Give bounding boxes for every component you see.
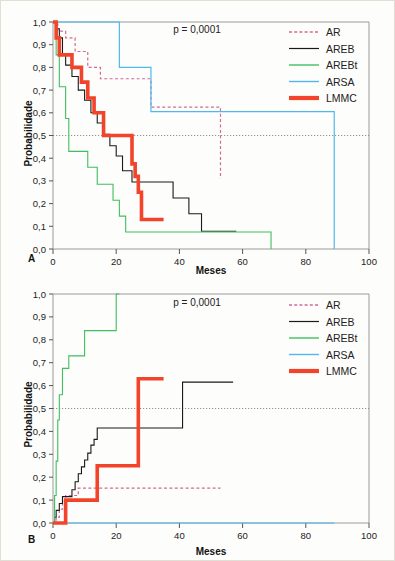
panel-a-label: A <box>28 253 35 264</box>
panel-b: B Probabilidade Meses 0,00,10,20,30,40,5… <box>1 282 395 561</box>
y-tick-label: 0,8 <box>33 62 46 73</box>
y-tick-label: 0,0 <box>33 518 46 529</box>
y-tick-label: 0,4 <box>33 426 46 437</box>
y-tick-label: 0,2 <box>33 198 46 209</box>
legend-label-ar: AR <box>326 26 341 38</box>
panel-a: A Probabilidade Meses 0,00,10,20,30,40,5… <box>1 1 395 282</box>
panel-a-x-axis-title: Meses <box>161 265 261 276</box>
panel-a-plot: 0,00,10,20,30,40,50,60,70,80,91,00204060… <box>1 1 395 282</box>
x-tick-label: 60 <box>237 530 248 541</box>
panel-b-y-axis-title: Probabilidade <box>23 365 34 465</box>
y-tick-label: 0,1 <box>33 495 46 506</box>
legend-label-arsa: ARSA <box>326 76 355 88</box>
x-tick-label: 100 <box>361 530 377 541</box>
y-tick-label: 0,3 <box>33 175 46 186</box>
y-tick-label: 0,2 <box>33 472 46 483</box>
y-tick-label: 0,5 <box>33 403 46 414</box>
y-tick-label: 0,9 <box>33 39 46 50</box>
series-line-ar <box>53 488 220 523</box>
legend-label-areb: AREB <box>326 316 355 328</box>
y-tick-label: 0,8 <box>33 334 46 345</box>
panel-b-x-axis-title: Meses <box>161 546 261 557</box>
series-line-areb <box>53 22 236 231</box>
y-tick-label: 0,6 <box>33 380 46 391</box>
y-tick-label: 0,6 <box>33 107 46 118</box>
y-tick-label: 0,7 <box>33 85 46 96</box>
y-tick-label: 0,7 <box>33 357 46 368</box>
y-tick-label: 0,4 <box>33 153 46 164</box>
x-tick-label: 40 <box>174 530 185 541</box>
panel-b-plot: 0,00,10,20,30,40,50,60,70,80,91,00204060… <box>1 282 395 561</box>
x-tick-label: 20 <box>111 256 122 267</box>
p-value-annotation: p = 0,0001 <box>173 297 221 308</box>
p-value-annotation: p = 0,0001 <box>173 24 221 35</box>
legend-label-areb: AREB <box>326 43 355 55</box>
y-tick-label: 0,9 <box>33 311 46 322</box>
x-tick-label: 80 <box>301 530 312 541</box>
series-line-lmmc <box>53 379 164 523</box>
x-tick-label: 0 <box>50 530 55 541</box>
panel-a-y-axis-title: Probabilidade <box>23 84 34 184</box>
y-tick-label: 0,3 <box>33 449 46 460</box>
panel-b-label: B <box>28 534 35 545</box>
legend-label-arebt: AREBt <box>326 59 358 71</box>
series-line-ar <box>53 22 220 179</box>
legend-label-arebt: AREBt <box>326 332 358 344</box>
x-tick-label: 80 <box>301 256 312 267</box>
x-tick-label: 100 <box>361 256 377 267</box>
x-tick-label: 20 <box>111 530 122 541</box>
legend-label-lmmc: LMMC <box>326 365 357 377</box>
plot-frame <box>53 22 369 249</box>
legend-label-lmmc: LMMC <box>326 92 357 104</box>
x-tick-label: 0 <box>50 256 55 267</box>
legend-label-ar: AR <box>326 299 341 311</box>
figure-frame: A Probabilidade Meses 0,00,10,20,30,40,5… <box>0 0 395 561</box>
y-tick-label: 0,1 <box>33 221 46 232</box>
y-tick-label: 1,0 <box>33 289 46 300</box>
y-tick-label: 0,5 <box>33 130 46 141</box>
series-line-lmmc <box>53 22 164 219</box>
y-tick-label: 1,0 <box>33 17 46 28</box>
legend-label-arsa: ARSA <box>326 349 355 361</box>
